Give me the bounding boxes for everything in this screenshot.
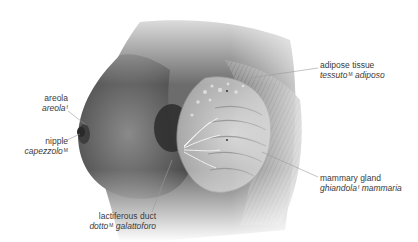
breast-illustration bbox=[0, 0, 418, 242]
label-gland-en: mammary gland bbox=[320, 173, 402, 183]
label-duct-it: dottoM galattoforo bbox=[72, 221, 156, 231]
label-nipple-en: nipple bbox=[10, 136, 68, 146]
label-nipple: nipple capezzoloM bbox=[10, 136, 68, 156]
label-areola-en: areola bbox=[20, 93, 68, 103]
label-adipose-tissue: adipose tissue tessutoM adiposo bbox=[320, 60, 385, 80]
label-areola-it: areolaf bbox=[20, 103, 68, 113]
label-adipose-en: adipose tissue bbox=[320, 60, 385, 70]
label-adipose-it: tessutoM adiposo bbox=[320, 70, 385, 80]
label-areola: areola areolaf bbox=[20, 93, 68, 113]
label-nipple-it: capezzoloM bbox=[10, 146, 68, 156]
label-gland-it: ghiandolaf mammaria bbox=[320, 183, 402, 193]
anatomy-illustration: areola areolaf nipple capezzoloM lactife… bbox=[0, 0, 418, 242]
label-mammary-gland: mammary gland ghiandolaf mammaria bbox=[320, 173, 402, 193]
label-lactiferous-duct: lactiferous duct dottoM galattoforo bbox=[72, 211, 156, 231]
label-duct-en: lactiferous duct bbox=[72, 211, 156, 221]
